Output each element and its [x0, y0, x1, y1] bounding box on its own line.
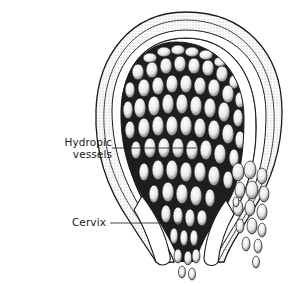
hydropic-label-line2: vessels [16, 148, 112, 160]
diagram-canvas: Hydropic vessels Cervix [0, 0, 292, 286]
hydropic-vessels-label: Hydropic vessels [16, 136, 112, 160]
cervix-label-text: Cervix [60, 216, 106, 228]
dangling-vessels [174, 249, 200, 280]
cervix-label: Cervix [60, 216, 106, 228]
hydropic-label-line1: Hydropic [16, 136, 112, 148]
protruding-vessels [232, 161, 269, 268]
